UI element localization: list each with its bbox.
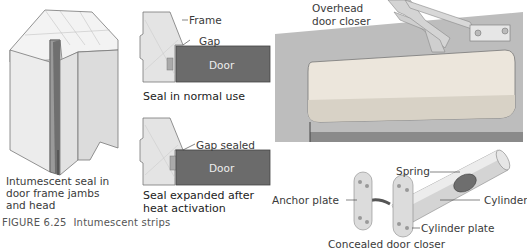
frame-section-drawing (0, 0, 130, 200)
figure-title: Intumescent strips (73, 217, 170, 228)
callout-line-2: door frame jambs (6, 187, 109, 199)
frame-label: Frame (189, 14, 222, 26)
figure-caption: FIGURE 6.25 Intumescent strips (2, 217, 170, 228)
concealed-closer-caption: Concealed door closer (328, 238, 445, 250)
gap-label: Gap (199, 35, 220, 47)
overhead-closer-label: Overhead door closer (312, 2, 371, 28)
figure-number: FIGURE 6.25 (2, 217, 67, 228)
cylinder-plate-label: Cylinder plate (421, 222, 494, 234)
gap-sealed-label: Gap sealed (196, 139, 255, 151)
seal-normal-caption: Seal in normal use (143, 90, 245, 103)
seal-expanded-caption: Seal expanded after heat activation (143, 189, 254, 215)
door-label-top: Door (209, 59, 234, 71)
callout-line-1: Intumescent seal in (6, 175, 109, 187)
overhead-label-line-1: Overhead (312, 2, 371, 15)
cylinder-label: Cylinder (484, 194, 527, 206)
overhead-label-line-2: door closer (312, 15, 371, 28)
caption-line-2: heat activation (143, 202, 254, 215)
caption-line-1: Seal expanded after (143, 189, 254, 202)
anchor-plate-label: Anchor plate (272, 194, 339, 206)
spring-label: Spring (396, 165, 430, 177)
callout-line-3: and head (6, 199, 109, 211)
door-label-bottom: Door (209, 162, 234, 174)
intumescent-seal-callout: Intumescent seal in door frame jambs and… (6, 175, 109, 211)
